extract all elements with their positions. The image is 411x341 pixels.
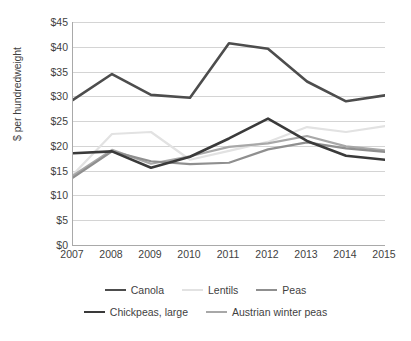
legend-item[interactable]: Peas <box>256 284 306 296</box>
legend-swatch-icon <box>206 311 227 313</box>
x-axis-tick-label: 2008 <box>91 248 131 260</box>
legend-swatch-icon <box>105 289 126 292</box>
legend-swatch-icon <box>84 311 105 314</box>
legend-label: Chickpeas, large <box>110 306 188 318</box>
x-axis-tick-label: 2010 <box>169 248 209 260</box>
legend-label: Canola <box>131 284 164 296</box>
y-axis-tick-label: $25 <box>30 116 68 126</box>
y-axis-tick-label: $5 <box>30 215 68 225</box>
legend-swatch-icon <box>256 289 277 291</box>
x-axis-tick-label: 2012 <box>247 248 287 260</box>
y-axis-tick-label: $35 <box>30 67 68 77</box>
x-axis-tick-label: 2013 <box>286 248 326 260</box>
legend-label: Austrian winter peas <box>232 306 327 318</box>
legend-row: Chickpeas, largeAustrian winter peas <box>0 301 411 323</box>
legend-item[interactable]: Chickpeas, large <box>84 306 188 318</box>
plot-area <box>72 22 385 246</box>
chart-legend: CanolaLentilsPeasChickpeas, largeAustria… <box>0 279 411 323</box>
legend-label: Peas <box>282 284 306 296</box>
y-axis-title: $ per hundredweight <box>11 0 23 194</box>
x-axis-tick-labels: 200720082009201020112012201320142015 <box>72 248 384 268</box>
y-axis-tick-label: $40 <box>30 42 68 52</box>
y-axis-tick-label: $10 <box>30 190 68 200</box>
legend-item[interactable]: Canola <box>105 284 164 296</box>
series-line <box>73 126 385 175</box>
x-axis-tick-label: 2014 <box>325 248 365 260</box>
x-axis-tick-label: 2011 <box>208 248 248 260</box>
x-axis-tick-label: 2015 <box>364 248 404 260</box>
legend-swatch-icon <box>182 289 203 291</box>
x-axis-tick-label: 2007 <box>52 248 92 260</box>
series-line <box>73 43 385 101</box>
series-lines <box>73 22 385 245</box>
y-axis-tick-label: $30 <box>30 91 68 101</box>
x-axis-tick-label: 2009 <box>130 248 170 260</box>
legend-row: CanolaLentilsPeas <box>0 279 411 301</box>
legend-item[interactable]: Lentils <box>182 284 238 296</box>
y-axis-tick-label: $45 <box>30 17 68 27</box>
y-axis-tick-label: $20 <box>30 141 68 151</box>
legend-label: Lentils <box>208 284 238 296</box>
y-axis-tick-label: $15 <box>30 166 68 176</box>
legend-item[interactable]: Austrian winter peas <box>206 306 327 318</box>
line-chart: $ per hundredweight $45$40$35$30$25$20$1… <box>0 0 411 341</box>
series-line <box>73 119 385 168</box>
